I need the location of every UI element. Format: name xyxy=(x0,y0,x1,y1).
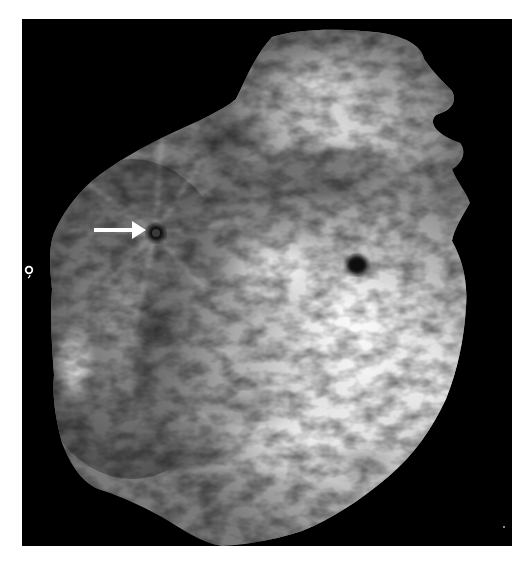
image-panel xyxy=(22,19,512,546)
left-lesion xyxy=(147,224,165,242)
speck xyxy=(503,526,505,528)
marker-text: o, xyxy=(0,0,1,1)
breast-tissue xyxy=(22,19,512,546)
image-description: Grayscale mammogram-style image on a bla… xyxy=(0,0,1,1)
mammogram-image xyxy=(22,19,512,546)
right-lesion xyxy=(346,255,368,275)
side-marker-icon xyxy=(24,264,34,280)
